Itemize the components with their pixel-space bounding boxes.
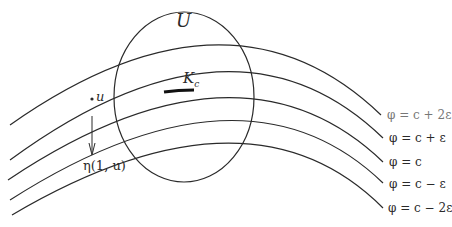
level-curve-c: [8, 98, 383, 180]
critical-set-letter: K: [183, 69, 194, 87]
flow-label: η(1, u): [83, 158, 126, 173]
critical-set-label: Kc: [183, 69, 199, 89]
level-label-c-minus-eps: φ = c − ε: [389, 177, 446, 191]
level-label-c-plus-eps: φ = c + ε: [389, 131, 446, 145]
critical-set-segment: [164, 90, 194, 92]
point-u-dot: [90, 97, 93, 100]
point-u-label: u: [96, 89, 104, 104]
region-u-label: U: [176, 10, 191, 31]
critical-set-subscript: c: [194, 79, 199, 89]
level-curve-c-minus-eps: [10, 120, 383, 200]
level-label-c: φ = c: [389, 155, 422, 169]
level-label-c-plus-2eps: φ = c + 2ε: [387, 108, 451, 122]
level-curve-c-minus-2eps: [12, 143, 383, 215]
neighborhood-u-ellipse: [114, 12, 254, 182]
level-label-c-minus-2eps: φ = c − 2ε: [388, 201, 452, 215]
